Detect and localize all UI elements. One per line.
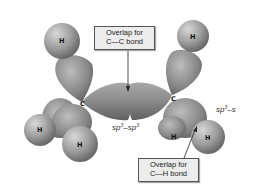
atom-label-c-right: C (171, 95, 176, 103)
callout-ch-line1: Overlap for (142, 160, 195, 169)
callout-ch-line2: C—H bond (142, 169, 195, 178)
callout-cc-line2: C—C bond (98, 37, 151, 46)
atom-label-h-bottom-left-1: H (37, 126, 42, 134)
atom-label-h-top-left: H (59, 37, 64, 45)
callout-ch-bond: Overlap for C—H bond (138, 158, 199, 182)
left-upper-lobe (55, 55, 93, 102)
label-sp3-s: sp3–s (216, 104, 236, 114)
atom-label-c-left: C (80, 100, 85, 108)
callout-cc-line1: Overlap for (98, 28, 151, 37)
right-upper-lobe (166, 50, 202, 95)
atom-label-h-bottom-left-2: H (77, 141, 82, 149)
callout-cc-bond: Overlap for C—C bond (94, 26, 155, 50)
atom-label-h-bottom-right-1: H (171, 133, 176, 141)
label-sp3-sp3: sp3–sp3 (112, 122, 139, 132)
atom-label-h-top-right: H (190, 33, 195, 41)
atom-label-h-bottom-right-2: H (205, 134, 210, 142)
